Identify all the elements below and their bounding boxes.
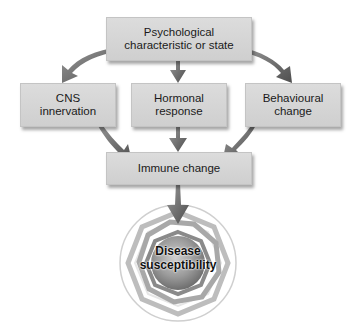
node-disease-susceptibility: Disease susceptibility — [130, 244, 226, 272]
node-behavioural-change: Behavioural change — [245, 83, 341, 127]
node-cns-innervation: CNS innervation — [20, 83, 116, 127]
node-label: Psychological — [124, 26, 233, 39]
node-label: characteristic or state — [124, 39, 233, 52]
arrow-top-to-hormonal — [170, 58, 186, 83]
node-label: Immune change — [138, 162, 220, 175]
node-label: CNS — [40, 92, 96, 105]
node-immune-change: Immune change — [106, 152, 252, 185]
node-label: response — [154, 105, 204, 118]
node-psychological-state: Psychological characteristic or state — [106, 17, 252, 61]
node-label: Behavioural — [263, 92, 324, 105]
node-label: innervation — [40, 105, 96, 118]
arrow-hormonal-to-immune — [169, 126, 187, 152]
node-label: Disease — [130, 244, 226, 258]
node-label: susceptibility — [130, 258, 226, 272]
node-label: Hormonal — [154, 92, 204, 105]
node-label: change — [263, 105, 324, 118]
node-hormonal-response: Hormonal response — [131, 83, 227, 127]
